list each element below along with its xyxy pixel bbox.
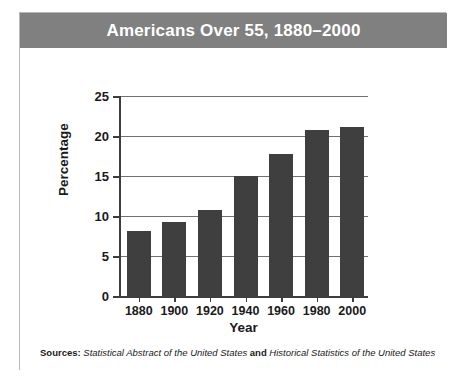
y-axis-label: Percentage (56, 123, 71, 196)
gridline (119, 136, 368, 137)
sources-label: Sources: (40, 347, 81, 358)
y-axis-tick-label: 0 (102, 289, 109, 304)
bar (234, 176, 258, 296)
chart-title-bar: Americans Over 55, 1880–2000 (20, 13, 447, 48)
x-axis-tick-label: 1920 (196, 304, 224, 318)
sources-conjunction: and (250, 347, 267, 358)
y-axis-tick-label: 10 (95, 209, 109, 224)
plot-area: 0510152025 1880190019201940196019802000 (119, 96, 368, 296)
chart-body: Percentage 0510152025 188019001920194019… (20, 48, 447, 370)
y-axis-tick-label: 25 (95, 89, 109, 104)
sources-note: Sources: Statistical Abstract of the Uni… (40, 347, 435, 358)
page-title: Americans Over 55, 1880–2000 (106, 21, 360, 41)
bar (340, 127, 364, 296)
x-axis-label: Year (119, 320, 368, 335)
y-axis-tick-label: 5 (102, 249, 109, 264)
y-axis-tick-label: 20 (95, 129, 109, 144)
bar (127, 231, 151, 296)
y-axis-line (119, 96, 121, 297)
bar (198, 210, 222, 296)
gridline (119, 96, 368, 97)
x-axis-tick-label: 1880 (125, 304, 153, 318)
x-axis-line (119, 296, 368, 298)
bar (305, 130, 329, 296)
bar (162, 222, 186, 296)
sources-second-title: Historical Statistics of the United Stat… (269, 347, 435, 358)
x-axis-tick-label: 1940 (232, 304, 260, 318)
bar (269, 154, 293, 296)
x-axis-tick-label: 1900 (160, 304, 188, 318)
chart-card: Americans Over 55, 1880–2000 Percentage … (19, 12, 446, 370)
x-axis-tick-label: 1980 (303, 304, 331, 318)
x-axis-tick-label: 1960 (267, 304, 295, 318)
y-axis-tick-label: 15 (95, 169, 109, 184)
sources-first-title: Statistical Abstract of the United State… (83, 347, 247, 358)
x-axis-tick-label: 2000 (338, 304, 366, 318)
